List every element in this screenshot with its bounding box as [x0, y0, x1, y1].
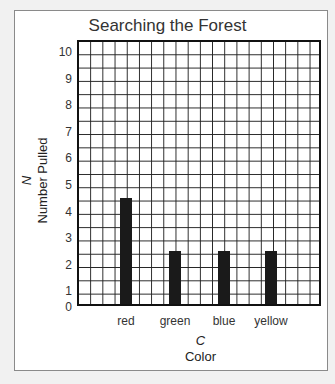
y-tick: 0	[52, 300, 72, 314]
x-axis-label: Color	[0, 349, 335, 364]
y-tick: 5	[52, 178, 72, 192]
y-axis-label: Number Pulled	[35, 131, 50, 231]
x-axis-variable: C	[0, 333, 335, 348]
bar-green	[169, 251, 181, 304]
y-tick: 2	[52, 258, 72, 272]
bar-blue	[218, 251, 230, 304]
bar-yellow	[265, 251, 277, 304]
y-tick: 1	[52, 284, 72, 298]
y-tick: 6	[52, 151, 72, 165]
y-tick: 8	[52, 98, 72, 112]
y-axis-variable: N	[19, 151, 34, 211]
chart-title: Searching the Forest	[0, 16, 335, 36]
bar-red	[120, 198, 132, 304]
y-tick: 9	[52, 72, 72, 86]
x-tick-yellow: yellow	[241, 314, 301, 328]
plot-area	[77, 40, 321, 306]
y-tick: 4	[52, 205, 72, 219]
y-tick: 10	[52, 45, 72, 59]
y-tick: 7	[52, 125, 72, 139]
y-tick: 3	[52, 231, 72, 245]
